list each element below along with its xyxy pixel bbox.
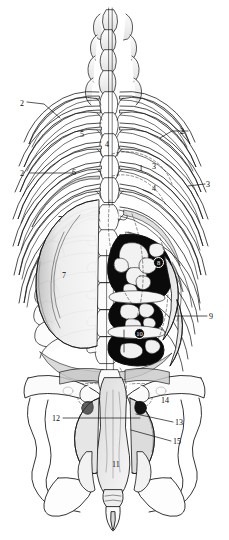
label-10: 10 [134, 328, 145, 339]
label-7-lower: 7 [62, 272, 66, 280]
label-2-upper-left: 2 [20, 100, 24, 108]
label-8: 8 [153, 257, 164, 268]
label-15: 15 [173, 438, 181, 446]
label-9: 9 [209, 313, 213, 321]
label-7-upper: 7 [58, 216, 62, 224]
label-4-lower: 4 [152, 185, 156, 193]
label-14: 14 [161, 397, 169, 405]
label-12: 12 [52, 415, 60, 423]
label-3-right: 3 [206, 181, 210, 189]
label-2-upper-right: 2 [180, 128, 184, 136]
label-5: 5 [80, 131, 84, 139]
label-4-upper: 4 [105, 141, 109, 149]
anatomical-illustration [0, 0, 229, 540]
label-3-mid: 3 [152, 163, 156, 171]
label-6: 6 [72, 169, 76, 177]
label-11: 11 [112, 461, 120, 469]
label-13: 13 [175, 419, 183, 427]
label-2-lower-left: 2 [20, 170, 24, 178]
label-1: 1 [139, 165, 143, 173]
